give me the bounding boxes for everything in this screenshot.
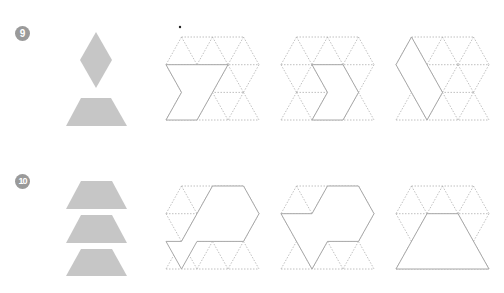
trapezoid-piece-1: [66, 181, 127, 209]
grid-9-1[interactable]: [166, 37, 259, 120]
marker-dot: [179, 26, 181, 28]
grid-10-2[interactable]: [281, 186, 374, 269]
trapezoid-piece-2: [66, 215, 127, 243]
grid-10-3[interactable]: [396, 186, 489, 269]
grid-9-3[interactable]: [396, 37, 489, 120]
trapezoid-piece: [66, 98, 127, 126]
rhombus-piece: [80, 32, 112, 88]
trapezoid-piece-3: [66, 249, 127, 276]
puzzle-canvas: [0, 0, 504, 293]
grid-9-2[interactable]: [281, 37, 374, 120]
grid-10-1[interactable]: [166, 186, 259, 269]
